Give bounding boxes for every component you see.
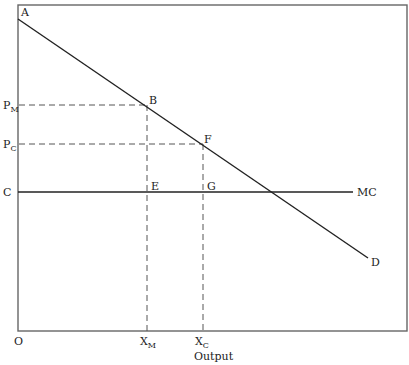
demand-line (18, 19, 368, 258)
plot-frame (18, 5, 407, 331)
point-f: F (204, 133, 212, 146)
label-d: D (371, 256, 380, 269)
label-a: A (20, 6, 30, 19)
label-xm: XM (140, 335, 156, 350)
x-axis-label: Output (194, 350, 234, 363)
origin-label: O (14, 335, 23, 348)
point-e: E (151, 180, 159, 193)
point-g: G (207, 180, 216, 193)
label-pc: PC (3, 138, 17, 153)
point-b: B (149, 94, 157, 107)
monopoly-diagram: A D MC C PM PC B F E G O XM XC Output (0, 0, 409, 365)
label-xc: XC (195, 335, 209, 350)
label-mc: MC (357, 186, 377, 199)
label-pm: PM (3, 99, 19, 114)
label-c: C (3, 186, 11, 199)
